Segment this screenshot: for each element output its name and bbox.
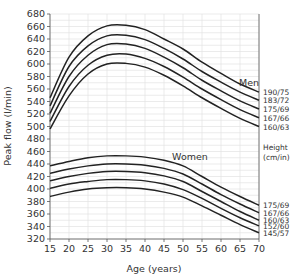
- series-label: 183/72: [263, 96, 290, 105]
- x-tick-label: 55: [196, 243, 208, 254]
- y-tick-label: 660: [27, 21, 45, 32]
- x-tick-label: 20: [63, 243, 75, 254]
- y-tick-label: 520: [27, 108, 45, 119]
- series-label: 167/66: [263, 114, 290, 123]
- curve-women-145-57: [50, 188, 259, 233]
- series-labels: 190/75183/72175/69167/66160/63175/69167/…: [263, 88, 290, 238]
- y-tick-label: 320: [27, 233, 45, 244]
- y-tick-label: 480: [27, 133, 45, 144]
- x-tick-label: 70: [253, 243, 265, 254]
- series-label: 175/69: [263, 105, 290, 114]
- height-label-line2: (cm/in): [263, 153, 290, 162]
- x-tick-label: 30: [101, 243, 113, 254]
- y-tick-label: 360: [27, 208, 45, 219]
- x-tick-label: 60: [215, 243, 227, 254]
- men-label: Men: [239, 77, 259, 88]
- y-tick-label: 680: [27, 8, 45, 19]
- height-label-line1: Height: [263, 143, 288, 152]
- x-tick-label: 50: [177, 243, 189, 254]
- y-tick-label: 500: [27, 121, 45, 132]
- y-tick-label: 420: [27, 171, 45, 182]
- y-tick-label: 380: [27, 196, 45, 207]
- y-tick-label: 560: [27, 83, 45, 94]
- y-tick-label: 620: [27, 46, 45, 57]
- y-tick-label: 440: [27, 158, 45, 169]
- y-tick-label: 580: [27, 71, 45, 82]
- curve-men-160-63: [50, 63, 259, 129]
- y-tick-label: 600: [27, 58, 45, 69]
- y-tick-label: 640: [27, 33, 45, 44]
- series-label: 160/63: [263, 123, 290, 132]
- series-label: 145/57: [263, 229, 290, 238]
- x-tick-labels: 152025303540455055606570: [44, 243, 265, 254]
- x-tick-label: 40: [139, 243, 151, 254]
- x-tick-label: 25: [82, 243, 94, 254]
- women-label: Women: [172, 151, 208, 162]
- x-axis-label: Age (years): [127, 263, 182, 274]
- x-tick-label: 45: [158, 243, 170, 254]
- y-tick-labels: 3203403603804004204404604805005205405605…: [27, 8, 45, 244]
- y-tick-label: 340: [27, 221, 45, 232]
- x-tick-label: 15: [44, 243, 56, 254]
- y-tick-label: 540: [27, 96, 45, 107]
- x-tick-label: 65: [234, 243, 246, 254]
- y-axis-label: Peak flow (l/min): [2, 86, 13, 165]
- x-tick-label: 35: [120, 243, 132, 254]
- y-tick-label: 460: [27, 146, 45, 157]
- peak-flow-chart: 3203403603804004204404604805005205405605…: [0, 0, 292, 279]
- y-tick-label: 400: [27, 183, 45, 194]
- curve-women-160-63: [50, 171, 259, 220]
